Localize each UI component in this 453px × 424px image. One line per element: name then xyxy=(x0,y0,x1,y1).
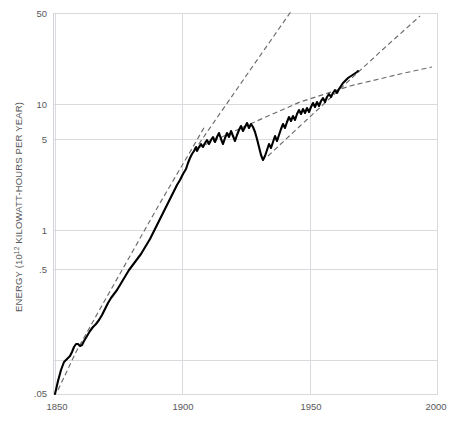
x-tick-label-2000: 2000 xyxy=(425,401,446,412)
y-tick-label-5: 5 xyxy=(42,134,47,145)
y-axis-title-exponent: 12 xyxy=(13,246,20,254)
chart-figure: 50 10 5 1 .5 .05 1850 1900 1950 2000 ENE… xyxy=(0,0,453,424)
y-tick-label-0.5: .5 xyxy=(39,264,47,275)
y-tick-labels: 50 10 5 1 .5 .05 xyxy=(34,8,47,399)
svg-text:ENERGY (1012 KILOWATT-HOURS PE: ENERGY (1012 KILOWATT-HOURS PER YEAR) xyxy=(13,102,25,312)
y-axis-title: ENERGY (1012 KILOWATT-HOURS PER YEAR) xyxy=(13,102,25,312)
y-axis-title-tail: KILOWATT-HOURS PER YEAR) xyxy=(13,102,24,247)
y-tick-label-10: 10 xyxy=(36,99,47,110)
chart-canvas: 50 10 5 1 .5 .05 1850 1900 1950 2000 ENE… xyxy=(0,0,453,424)
x-tick-label-1850: 1850 xyxy=(46,401,67,412)
plot-background xyxy=(54,14,438,395)
x-tick-labels: 1850 1900 1950 2000 xyxy=(46,401,446,412)
y-axis-title-main: ENERGY (10 xyxy=(13,254,24,312)
x-tick-label-1950: 1950 xyxy=(300,401,321,412)
y-tick-label-50: 50 xyxy=(36,8,47,19)
y-tick-label-0.05: .05 xyxy=(34,388,47,399)
x-tick-label-1900: 1900 xyxy=(172,401,193,412)
y-tick-label-1: 1 xyxy=(42,225,47,236)
